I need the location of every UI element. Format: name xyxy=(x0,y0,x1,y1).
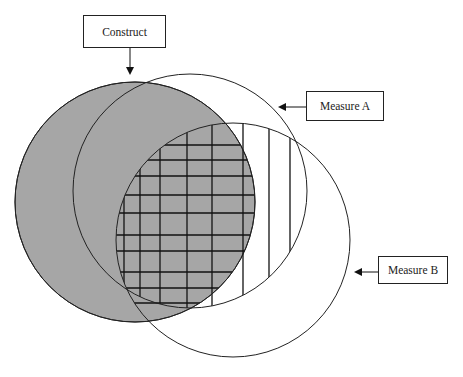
construct-circle xyxy=(15,82,255,322)
measure-a-arrow xyxy=(278,103,306,111)
venn-diagram xyxy=(0,0,463,377)
measure-b-label: Measure B xyxy=(378,256,448,284)
construct-arrow xyxy=(126,47,134,75)
measure-a-label: Measure A xyxy=(306,91,384,121)
construct-label: Construct xyxy=(83,15,166,48)
